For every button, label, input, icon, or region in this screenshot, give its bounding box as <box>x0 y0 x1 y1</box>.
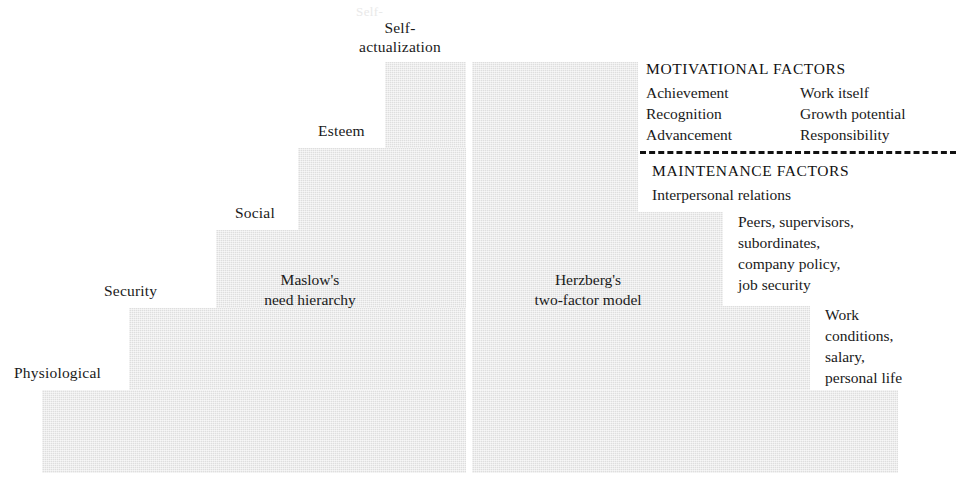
herzberg-step-work-conditions <box>472 306 810 390</box>
maslow-label-social: Social <box>235 203 275 222</box>
motivational-item-achievement: Achievement <box>646 82 732 103</box>
motivational-item-work-itself: Work itself <box>800 82 905 103</box>
figure-canvas: Self- Physiological Security Social Este… <box>0 0 960 496</box>
maslow-step-security <box>129 308 466 390</box>
maintenance-item-company-policy: company policy, <box>738 253 854 274</box>
herzberg-step-motivational <box>472 62 638 148</box>
motivational-factors-column-left: Achievement Recognition Advancement <box>646 82 732 145</box>
factors-dashed-separator <box>640 151 956 154</box>
herzberg-step-interpersonal <box>472 148 638 212</box>
herzberg-caption-line1: Herzberg's <box>476 270 700 290</box>
motivational-item-growth-potential: Growth potential <box>800 103 905 124</box>
maslow-caption-line1: Maslow's <box>200 270 420 290</box>
maslow-step-self-actualization <box>385 62 466 148</box>
maintenance-item-salary: salary, <box>825 346 902 367</box>
motivational-factors-heading: MOTIVATIONAL FACTORS <box>646 60 846 78</box>
maintenance-group-bottom: Work conditions, salary, personal life <box>825 304 902 388</box>
maintenance-group-middle: Peers, supervisors, subordinates, compan… <box>738 211 854 295</box>
motivational-factors-column-right: Work itself Growth potential Responsibil… <box>800 82 905 145</box>
maslow-label-self-actualization: Self- actualization <box>330 18 470 56</box>
maslow-step-esteem <box>298 148 466 230</box>
maintenance-subhead-interpersonal-relations: Interpersonal relations <box>652 184 791 205</box>
maintenance-item-work: Work <box>825 304 902 325</box>
maslow-label-security: Security <box>104 281 157 300</box>
maintenance-item-conditions: conditions, <box>825 325 902 346</box>
herzberg-caption-line2: two-factor model <box>476 290 700 310</box>
herzberg-step-base <box>472 390 898 473</box>
maintenance-factors-heading: MAINTENANCE FACTORS <box>652 162 849 180</box>
motivational-item-advancement: Advancement <box>646 124 732 145</box>
maintenance-item-job-security: job security <box>738 274 854 295</box>
maintenance-item-peers-supervisors: Peers, supervisors, <box>738 211 854 232</box>
maslow-label-self-actualization-line1: Self- <box>330 18 470 37</box>
maslow-step-physiological <box>42 390 466 473</box>
maslow-caption-line2: need hierarchy <box>200 290 420 310</box>
motivational-item-recognition: Recognition <box>646 103 732 124</box>
maslow-label-self-actualization-line2: actualization <box>330 37 470 56</box>
herzberg-model-caption: Herzberg's two-factor model <box>476 270 700 310</box>
maslow-label-physiological: Physiological <box>14 363 101 382</box>
maslow-model-caption: Maslow's need hierarchy <box>200 270 420 310</box>
maintenance-item-personal-life: personal life <box>825 367 902 388</box>
maintenance-item-subordinates: subordinates, <box>738 232 854 253</box>
motivational-item-responsibility: Responsibility <box>800 124 905 145</box>
maslow-label-esteem: Esteem <box>318 121 365 140</box>
